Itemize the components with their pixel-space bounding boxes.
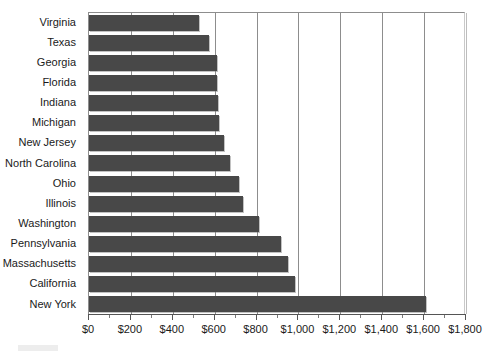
bar — [89, 35, 209, 51]
bar-row — [89, 234, 464, 254]
gridline — [466, 13, 467, 314]
x-tick — [297, 315, 298, 320]
category-label: Ohio — [0, 173, 82, 193]
category-label: Virginia — [0, 12, 82, 32]
category-label: Florida — [0, 72, 82, 92]
x-tick-label: $200 — [118, 322, 142, 336]
bar-row — [89, 254, 464, 274]
chart-title-remnant — [0, 0, 483, 3]
x-minor-tick — [360, 315, 361, 318]
x-minor-tick — [235, 315, 236, 318]
bar-row — [89, 33, 464, 53]
x-tick-label: $1,600 — [406, 322, 440, 336]
bar-row — [89, 174, 464, 194]
x-axis-line — [88, 314, 466, 321]
bar-row — [89, 133, 464, 153]
x-tick-label: $1,200 — [323, 322, 357, 336]
bar-row — [89, 194, 464, 214]
x-tick — [172, 315, 173, 320]
x-axis-tick-labels: $0$200$400$600$800$1,000$1,200$1,400$1,6… — [0, 322, 483, 338]
x-tick-label: $1,800 — [448, 322, 482, 336]
bar-chart: VirginiaTexasGeorgiaFloridaIndianaMichig… — [0, 0, 483, 355]
bar — [89, 256, 288, 272]
bar-series — [89, 13, 464, 314]
bar — [89, 155, 230, 171]
x-tick — [256, 315, 257, 320]
bar-row — [89, 93, 464, 113]
x-tick-label: $1,000 — [281, 322, 315, 336]
x-tick — [423, 315, 424, 320]
bar-row — [89, 53, 464, 73]
x-tick — [381, 315, 382, 320]
x-minor-tick — [109, 315, 110, 318]
x-minor-tick — [402, 315, 403, 318]
bar — [89, 135, 224, 151]
bar-row — [89, 153, 464, 173]
category-label: New Jersey — [0, 133, 82, 153]
page-artifact — [18, 345, 58, 351]
bar — [89, 236, 281, 252]
bar — [89, 296, 426, 312]
x-tick — [88, 315, 89, 320]
category-label: Texas — [0, 32, 82, 52]
x-minor-tick — [318, 315, 319, 318]
bar-row — [89, 73, 464, 93]
bar — [89, 95, 218, 111]
bar-row — [89, 294, 464, 314]
bar — [89, 276, 295, 292]
x-tick — [339, 315, 340, 320]
bar — [89, 75, 217, 91]
bar-row — [89, 274, 464, 294]
x-minor-tick — [193, 315, 194, 318]
x-tick-label: $800 — [243, 322, 267, 336]
x-tick — [214, 315, 215, 320]
bar-row — [89, 113, 464, 133]
x-tick — [465, 315, 466, 320]
bar — [89, 15, 199, 31]
category-label: Illinois — [0, 193, 82, 213]
bar-row — [89, 214, 464, 234]
x-minor-tick — [277, 315, 278, 318]
category-label: Michigan — [0, 113, 82, 133]
category-label: Massachusetts — [0, 254, 82, 274]
category-axis-labels: VirginiaTexasGeorgiaFloridaIndianaMichig… — [0, 12, 82, 314]
plot-area — [88, 12, 465, 314]
category-label: Washington — [0, 213, 82, 233]
x-tick — [130, 315, 131, 320]
category-label: Pennsylvania — [0, 234, 82, 254]
category-label: Indiana — [0, 93, 82, 113]
x-tick-label: $0 — [82, 322, 94, 336]
bar — [89, 216, 259, 232]
x-tick-label: $400 — [160, 322, 184, 336]
category-label: Georgia — [0, 52, 82, 72]
bar — [89, 55, 217, 71]
bar — [89, 115, 219, 131]
bar — [89, 196, 243, 212]
category-label: California — [0, 274, 82, 294]
category-label: North Carolina — [0, 153, 82, 173]
bar — [89, 176, 239, 192]
category-label: New York — [0, 294, 82, 314]
x-tick-label: $600 — [201, 322, 225, 336]
x-minor-tick — [151, 315, 152, 318]
x-tick-label: $1,400 — [364, 322, 398, 336]
bar-row — [89, 13, 464, 33]
x-minor-tick — [444, 315, 445, 318]
